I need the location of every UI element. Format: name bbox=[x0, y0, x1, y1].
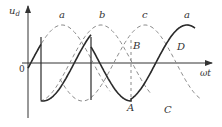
waveform-svg: ud 0 ωt a b c a B D A C bbox=[0, 0, 222, 127]
phase-label-a2: a bbox=[184, 9, 190, 20]
phase-a-dashed-curve bbox=[28, 25, 195, 91]
point-label-A: A bbox=[126, 102, 134, 113]
waveform-diagram: ud 0 ωt a b c a B D A C bbox=[0, 0, 222, 127]
point-label-D: D bbox=[176, 41, 185, 52]
phase-label-c: c bbox=[142, 9, 148, 20]
phase-label-b: b bbox=[99, 9, 105, 20]
x-axis-label: ωt bbox=[200, 68, 211, 78]
point-label-B: B bbox=[132, 40, 140, 51]
y-axis-label: ud bbox=[9, 5, 20, 18]
origin-label: 0 bbox=[19, 64, 25, 74]
point-label-C: C bbox=[164, 104, 172, 115]
phase-label-a: a bbox=[59, 9, 65, 20]
